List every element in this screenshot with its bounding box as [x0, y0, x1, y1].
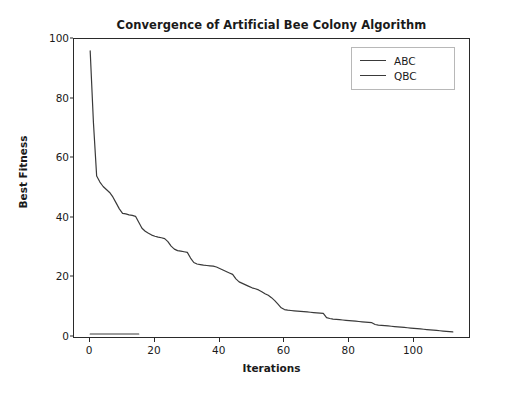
- legend-label-abc: ABC: [394, 55, 416, 67]
- x-tick-label: 100: [393, 344, 433, 356]
- x-tick-mark: [413, 338, 414, 342]
- x-tick-label: 20: [134, 344, 174, 356]
- series-line-abc: [90, 51, 453, 332]
- x-tick-label: 40: [199, 344, 239, 356]
- x-tick-label: 0: [69, 344, 109, 356]
- x-axis-label: Iterations: [73, 362, 470, 374]
- x-tick-mark: [348, 338, 349, 342]
- y-tick-label: 80: [35, 92, 69, 104]
- legend-item-qbc: QBC: [360, 68, 446, 83]
- chart-legend: ABC QBC: [351, 47, 455, 90]
- y-tick-label: 100: [35, 32, 69, 44]
- y-axis-ticks: 100806040200: [0, 0, 69, 396]
- x-tick-mark: [219, 338, 220, 342]
- x-tick-label: 60: [263, 344, 303, 356]
- legend-item-abc: ABC: [360, 53, 446, 68]
- y-tick-label: 40: [35, 211, 69, 223]
- y-tick-label: 20: [35, 270, 69, 282]
- y-tick-label: 0: [35, 330, 69, 342]
- chart-title: Convergence of Artificial Bee Colony Alg…: [73, 18, 470, 32]
- legend-label-qbc: QBC: [394, 70, 417, 82]
- y-tick-label: 60: [35, 151, 69, 163]
- x-tick-label: 80: [328, 344, 368, 356]
- x-tick-mark: [283, 338, 284, 342]
- x-tick-mark: [154, 338, 155, 342]
- legend-swatch-icon: [360, 60, 386, 61]
- legend-swatch-icon: [360, 75, 386, 76]
- chart-figure: Convergence of Artificial Bee Colony Alg…: [0, 0, 507, 396]
- x-tick-mark: [89, 338, 90, 342]
